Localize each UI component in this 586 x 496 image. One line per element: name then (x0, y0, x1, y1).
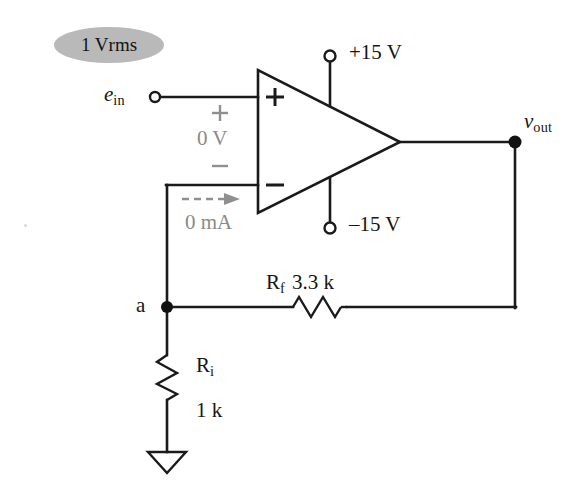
input-resistor-label: Ri (196, 355, 214, 378)
feedback-resistor-symbol (293, 297, 341, 317)
scan-artifact-speck (24, 224, 27, 227)
current-annotation-label: 0 mA (185, 212, 232, 233)
feedback-resistor-subscript: f (280, 280, 285, 296)
output-signal-subscript: out (533, 119, 552, 135)
feedback-resistor-symbol-text: R (266, 270, 280, 294)
negative-supply-label: –15 V (349, 214, 401, 235)
input-signal-symbol: e (104, 82, 113, 106)
output-signal-label: vout (524, 111, 552, 134)
feedback-resistor-value: 3.3 k (292, 270, 334, 294)
node-a-label: a (136, 295, 145, 316)
positive-supply-label: +15 V (349, 42, 402, 63)
input-signal-label: ein (104, 84, 125, 107)
source-badge-subscript: rms (109, 34, 138, 56)
input-resistor-value: 1 k (196, 400, 222, 421)
input-signal-subscript: in (113, 92, 125, 108)
feedback-resistor-label: Rf3.3 k (266, 272, 334, 295)
source-badge: 1 Vrms (54, 27, 164, 63)
schematic-svg (0, 0, 586, 496)
input-resistor-symbol (157, 355, 177, 400)
ground-icon (148, 452, 186, 473)
source-badge-value: 1 V (81, 34, 109, 56)
positive-supply-terminal-icon (325, 51, 336, 62)
circuit-diagram-canvas: 1 Vrms ein 0 V 0 mA +15 V –15 V vout a R… (0, 0, 586, 496)
current-arrow-icon (182, 193, 240, 205)
vout-junction-dot (509, 136, 522, 149)
differential-voltage-label: 0 V (197, 128, 228, 149)
input-terminal-icon (150, 92, 160, 102)
negative-supply-terminal-icon (325, 223, 336, 234)
node-a-junction-dot (161, 301, 173, 313)
input-resistor-subscript: i (210, 363, 214, 379)
input-resistor-symbol-text: R (196, 353, 210, 377)
output-signal-symbol: v (524, 109, 533, 133)
